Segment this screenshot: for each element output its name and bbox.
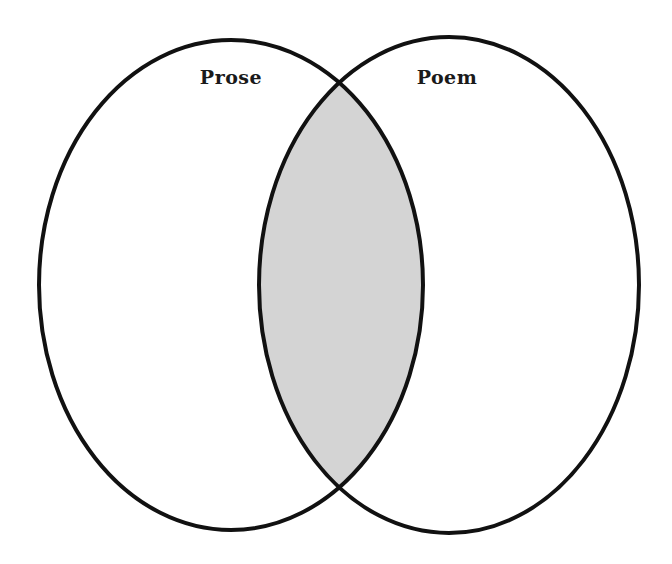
- venn-diagram: Prose Poem: [0, 0, 672, 564]
- poem-label: Poem: [417, 66, 478, 88]
- prose-label: Prose: [200, 66, 262, 88]
- overlap-region: [259, 37, 639, 533]
